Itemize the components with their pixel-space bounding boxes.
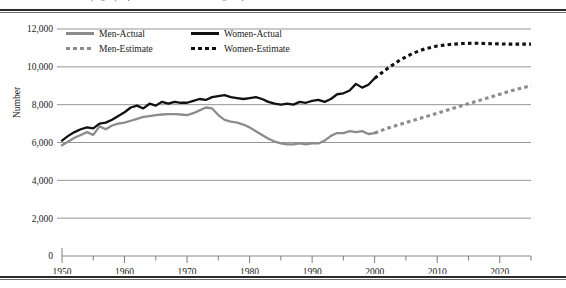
legend-swatch-men-estimate-icon (66, 43, 94, 54)
x-tick-label: 1980 (240, 267, 259, 274)
legend-item-men-estimate: Men-Estimate (66, 43, 191, 54)
legend-row-actual: Men-Actual Women-Actual (66, 26, 316, 41)
y-tick-label: 8,000 (32, 100, 54, 110)
x-tick-label: 1970 (178, 267, 197, 274)
series-line-men-actual (62, 108, 375, 146)
legend-item-women-actual: Women-Actual (191, 28, 316, 39)
top-rule-thin (0, 12, 566, 13)
series-line-women-estimate (375, 43, 531, 78)
page-caption-cropped: of 5 (English). http://www.imdb.com/char… (78, 0, 548, 3)
y-tick-label: 10,000 (27, 62, 53, 72)
top-rule (0, 9, 566, 11)
legend-item-men-actual: Men-Actual (66, 28, 191, 39)
legend-item-women-estimate: Women-Estimate (191, 43, 316, 54)
y-tick-label: 0 (48, 251, 53, 261)
x-tick-label: 1960 (115, 267, 134, 274)
series-line-men-estimate (375, 86, 531, 133)
y-tick-label: 4,000 (32, 176, 54, 186)
y-axis-label: Number (12, 87, 22, 118)
bottom-rule-thin (0, 279, 566, 280)
y-tick-label: 12,000 (27, 24, 53, 34)
legend-label-women-actual: Women-Actual (224, 29, 282, 39)
legend-row-estimate: Men-Estimate Women-Estimate (66, 41, 316, 56)
legend-label-women-estimate: Women-Estimate (224, 44, 290, 54)
x-tick-label: 2010 (428, 267, 447, 274)
legend-label-men-actual: Men-Actual (99, 29, 145, 39)
x-tick-label: 2020 (490, 267, 509, 274)
bottom-rule (0, 276, 566, 278)
legend-swatch-women-estimate-icon (191, 43, 219, 54)
y-tick-label: 6,000 (32, 138, 54, 148)
y-tick-label: 2,000 (32, 214, 54, 224)
legend-label-men-estimate: Men-Estimate (99, 44, 153, 54)
legend-swatch-men-actual-icon (66, 28, 94, 39)
chart-page: of 5 (English). http://www.imdb.com/char… (0, 0, 566, 288)
x-tick-label: 1950 (53, 267, 72, 274)
x-tick-label: 1990 (303, 267, 322, 274)
chart-legend: Men-Actual Women-Actual Men-Estimate Wom… (66, 26, 316, 56)
legend-swatch-women-actual-icon (191, 28, 219, 39)
series-line-women-actual (62, 78, 375, 140)
x-tick-label: 2000 (365, 267, 384, 274)
